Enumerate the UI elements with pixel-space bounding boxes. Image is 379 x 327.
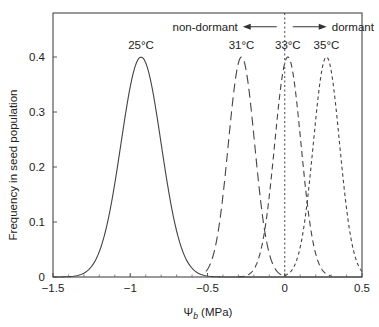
plot-frame	[53, 13, 362, 277]
dormant-label: dormant	[332, 21, 375, 33]
curve-label: 35°C	[314, 39, 340, 51]
plot-border	[53, 13, 362, 277]
curve-25c	[53, 57, 362, 277]
curve-label: 31°C	[229, 39, 255, 51]
curve-label: 25°C	[128, 39, 154, 51]
x-tick-label: 0	[282, 282, 288, 294]
non-dormant-label: non-dormant	[173, 21, 239, 33]
dormancy-annotation: non-dormantdormant	[173, 13, 375, 277]
right-arrow-icon	[319, 24, 327, 30]
y-tick-label: 0.3	[29, 106, 45, 118]
y-tick-label: 0.2	[29, 161, 45, 173]
curve-label: 33°C	[275, 39, 301, 51]
y-axis-label: Frequency in seed population	[7, 90, 19, 241]
x-tick-label: −0.5	[196, 282, 219, 294]
axis-ticks: −1.5−1−0.500.500.10.20.30.4	[29, 51, 370, 294]
x-tick-label: −1.5	[42, 282, 65, 294]
x-axis-label: Ψb (MPa)	[184, 306, 233, 321]
chart-container: −1.5−1−0.500.500.10.20.30.4 25°C31°C33°C…	[0, 0, 379, 327]
y-tick-label: 0.1	[29, 216, 45, 228]
distribution-curves	[53, 57, 362, 277]
y-tick-label: 0.4	[29, 51, 46, 63]
seed-population-chart: −1.5−1−0.500.500.10.20.30.4 25°C31°C33°C…	[0, 0, 379, 327]
y-tick-label: 0	[39, 271, 45, 283]
left-arrow-icon	[243, 24, 251, 30]
curve-labels: 25°C31°C33°C35°C	[128, 39, 339, 51]
x-tick-label: −1	[124, 282, 137, 294]
x-tick-label: 0.5	[354, 282, 370, 294]
curve-35c	[285, 57, 362, 276]
